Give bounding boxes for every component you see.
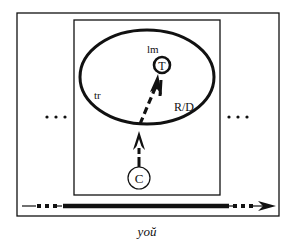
diagram-canvas: C T lm tr R/D	[0, 0, 294, 244]
caption: yoŭ	[0, 224, 294, 240]
ellipsis-left	[45, 115, 66, 118]
target-label: T	[158, 59, 166, 73]
landmark-label: lm	[147, 43, 159, 55]
ellipsis-right	[227, 115, 248, 118]
mental-path-lower	[133, 131, 145, 167]
trajector-label: tr	[94, 89, 101, 101]
region-label: R/D	[174, 100, 194, 114]
target-node: T	[154, 57, 170, 73]
time-axis-arrow	[22, 201, 276, 211]
conceptualizer-label: C	[135, 171, 144, 186]
mental-path-upper	[140, 74, 162, 124]
conceptualizer-node: C	[128, 167, 150, 189]
